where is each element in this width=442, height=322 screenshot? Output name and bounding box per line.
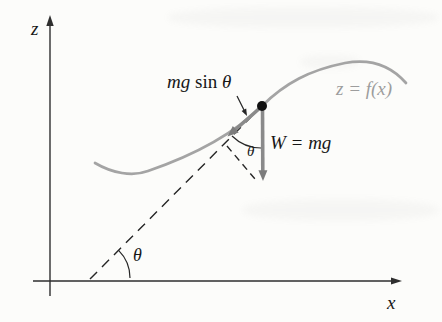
dashed-tangent-line: [90, 117, 251, 279]
diagram-canvas: [0, 0, 442, 322]
component-coef-text: mg: [167, 71, 190, 92]
component-fn-text: sin: [195, 71, 217, 92]
weight-label: W = mg: [270, 133, 331, 152]
curve-equation-label: z = f(x): [336, 79, 392, 98]
particle-dot: [257, 101, 267, 111]
z-axis-label: z: [31, 19, 38, 38]
x-axis-arrowhead-icon: [391, 277, 402, 284]
tangential-vector-shaft: [235, 107, 261, 130]
theta-at-axis-label: θ: [133, 246, 142, 264]
label-pointer-line: [237, 96, 245, 111]
theta-arc-axis: [119, 250, 130, 278]
component-angle-text: θ: [222, 71, 231, 92]
label-pointer-arrowhead-icon: [242, 109, 247, 116]
weight-vector-arrowhead-icon: [258, 170, 267, 181]
physics-force-diagram: z x mg sin θ z = f(x) W = mg θ θ: [0, 0, 442, 322]
theta-at-point-label: θ: [247, 144, 254, 159]
tangential-component-label: mg sin θ: [167, 72, 231, 91]
z-axis-arrowhead-icon: [46, 15, 53, 26]
x-axis-label: x: [387, 293, 395, 312]
